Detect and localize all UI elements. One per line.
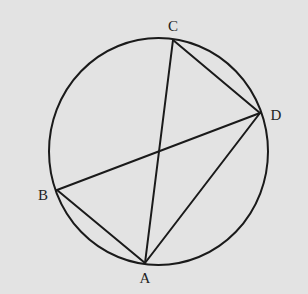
chords <box>57 40 260 263</box>
segment-ba <box>57 190 145 263</box>
point-label-b: B <box>38 187 48 203</box>
geometry-diagram: A B C D <box>0 0 308 294</box>
point-label-a: A <box>140 270 151 286</box>
point-label-d: D <box>271 107 282 123</box>
point-label-c: C <box>168 18 178 34</box>
segment-cd <box>173 40 260 113</box>
